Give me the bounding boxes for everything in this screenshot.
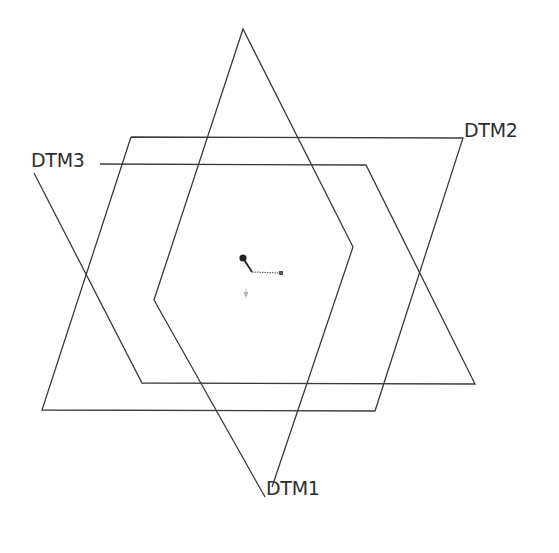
datum-label-dtm2[interactable]: DTM2 xyxy=(464,121,518,140)
model-viewport[interactable] xyxy=(0,0,559,553)
csys-z-axis-icon xyxy=(243,258,252,272)
csys-x-axis-end-icon xyxy=(279,271,283,275)
datum-plane-dtm3[interactable] xyxy=(34,164,475,384)
datum-label-dtm3[interactable]: DTM3 xyxy=(31,151,85,170)
datum-label-dtm1[interactable]: DTM1 xyxy=(266,479,320,498)
datum-plane-dtm2[interactable] xyxy=(42,137,463,411)
datum-plane-dtm1[interactable] xyxy=(154,29,353,497)
csys-x-axis-icon xyxy=(252,272,281,273)
coordinate-system-icon[interactable] xyxy=(239,254,283,298)
